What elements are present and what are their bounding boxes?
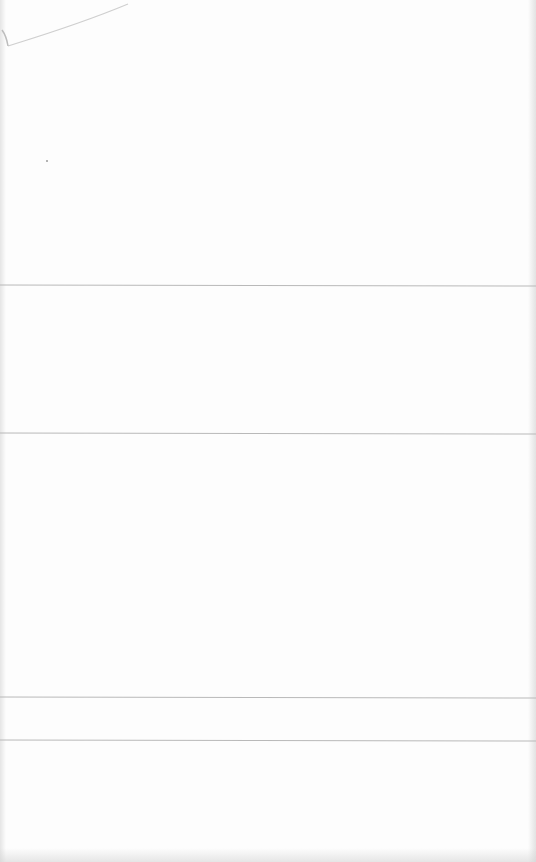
section-2 — [0, 287, 536, 433]
section-4 — [0, 699, 536, 740]
section-3 — [0, 435, 536, 697]
section-1 — [0, 0, 536, 285]
section-5 — [0, 742, 536, 862]
scanned-page — [0, 0, 536, 862]
